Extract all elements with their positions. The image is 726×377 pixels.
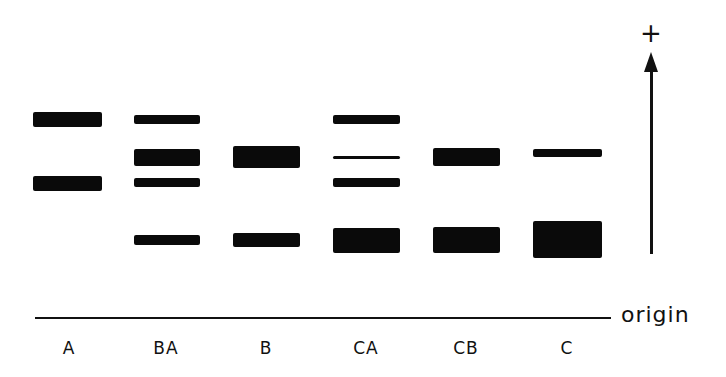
band-lane-a-1 bbox=[33, 112, 102, 127]
band-lane-a-2 bbox=[33, 176, 102, 191]
lane-label-cb: CB bbox=[453, 338, 479, 358]
band-lane-c-2 bbox=[533, 221, 602, 258]
band-lane-ba-2 bbox=[134, 149, 200, 166]
origin-line bbox=[35, 317, 611, 319]
lane-label-c: C bbox=[561, 338, 574, 358]
band-lane-ba-4 bbox=[134, 235, 200, 245]
migration-arrow-shaft bbox=[650, 62, 653, 254]
band-lane-ca-2 bbox=[333, 156, 400, 159]
lane-label-a: A bbox=[63, 338, 76, 358]
band-lane-ca-4 bbox=[333, 228, 400, 253]
band-lane-ba-1 bbox=[134, 115, 200, 124]
band-lane-b-1 bbox=[233, 146, 300, 168]
band-lane-c-1 bbox=[533, 149, 602, 157]
band-lane-ca-3 bbox=[333, 178, 400, 187]
lane-label-b: B bbox=[260, 338, 273, 358]
positive-pole-label: + bbox=[640, 20, 662, 46]
band-lane-b-2 bbox=[233, 233, 300, 247]
lane-label-ba: BA bbox=[153, 338, 178, 358]
band-lane-cb-1 bbox=[433, 148, 500, 166]
band-lane-cb-2 bbox=[433, 227, 500, 253]
gel-diagram: ABABCACBC origin + bbox=[0, 0, 726, 377]
lane-label-ca: CA bbox=[353, 338, 379, 358]
origin-label: origin bbox=[621, 302, 690, 327]
band-lane-ca-1 bbox=[333, 115, 400, 124]
band-lane-ba-3 bbox=[134, 178, 200, 187]
